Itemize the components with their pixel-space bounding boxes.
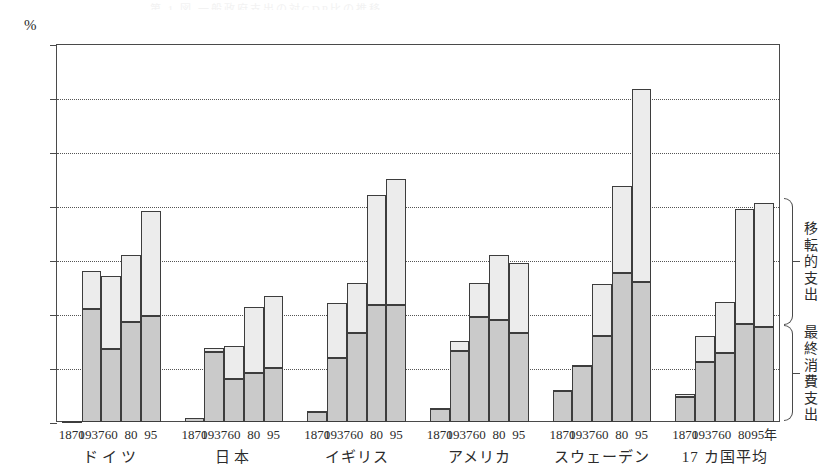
bar-segment-consumption (715, 353, 735, 422)
x-axis-country-label: 日本 (185, 450, 284, 465)
bar-segment-transfer (754, 203, 774, 327)
bar-segment-consumption (347, 333, 367, 422)
bar-3-3[interactable] (489, 255, 509, 422)
bar-segment-consumption (572, 366, 592, 422)
bar-segment-consumption (754, 327, 774, 422)
x-axis-country-label: ドイツ (62, 450, 161, 465)
bar-segment-consumption (592, 336, 612, 422)
bar-5-2[interactable] (715, 302, 735, 422)
bar-0-0[interactable] (62, 421, 82, 422)
y-axis-tick (50, 153, 57, 154)
bar-2-4[interactable] (386, 179, 406, 422)
brace-pointer (793, 261, 800, 262)
gridline (57, 369, 779, 370)
bar-segment-consumption (735, 324, 755, 422)
bar-3-1[interactable] (450, 341, 470, 422)
gridline (57, 153, 779, 154)
bar-5-1[interactable] (695, 336, 715, 422)
bar-segment-consumption (367, 305, 387, 422)
brace-pointer (793, 373, 800, 374)
y-axis-tick (50, 207, 57, 208)
gridline (57, 99, 779, 100)
y-axis-tick (50, 261, 57, 262)
bar-segment-consumption (121, 322, 141, 422)
bar-2-2[interactable] (347, 283, 367, 422)
y-axis-tick (50, 369, 57, 370)
chart-title-faint: 第 1 図 一般政府支出の対GDP比の推移 (150, 0, 620, 10)
bar-segment-transfer (327, 303, 347, 358)
bar-segment-transfer (367, 195, 387, 305)
bar-5-0[interactable] (675, 394, 695, 422)
bar-1-1[interactable] (204, 348, 224, 422)
bar-segment-transfer (224, 346, 244, 378)
x-axis-country-label: イギリス (307, 450, 406, 465)
plot-area (56, 44, 780, 422)
bar-0-2[interactable] (101, 276, 121, 422)
bar-segment-transfer (715, 302, 735, 354)
bar-4-0[interactable] (553, 390, 573, 422)
chart-root: 第 1 図 一般政府支出の対GDP比の推移 % 010203040506070 … (0, 0, 836, 475)
bar-segment-transfer (469, 283, 489, 317)
bar-2-3[interactable] (367, 195, 387, 422)
bar-segment-transfer (612, 186, 632, 273)
bar-segment-consumption (386, 305, 406, 422)
bar-segment-consumption (327, 358, 347, 422)
bar-4-3[interactable] (612, 186, 632, 422)
legend-label-transfer: 移転的支出 (802, 221, 819, 304)
bar-5-3[interactable] (735, 209, 755, 422)
bar-segment-transfer (450, 341, 470, 351)
gridline (57, 207, 779, 208)
bar-segment-transfer (347, 283, 367, 333)
x-axis-year-label: 95年 (746, 428, 782, 441)
bar-3-4[interactable] (509, 263, 529, 422)
bar-segment-consumption (224, 379, 244, 422)
bar-segment-consumption (264, 368, 284, 422)
bar-segment-transfer (121, 255, 141, 323)
bar-1-3[interactable] (244, 307, 264, 422)
bar-segment-transfer (264, 296, 284, 368)
y-axis-tick (50, 45, 57, 46)
x-axis-year-label: 95 (624, 428, 660, 441)
bar-0-3[interactable] (121, 255, 141, 422)
bar-2-0[interactable] (307, 411, 327, 422)
bar-segment-consumption (509, 333, 529, 422)
bar-segment-consumption (244, 373, 264, 422)
bar-segment-consumption (553, 391, 573, 422)
x-axis-country-label: スウェーデン (553, 450, 652, 465)
bar-segment-consumption (469, 317, 489, 422)
bar-3-0[interactable] (430, 408, 450, 422)
y-axis-unit-label: % (24, 18, 37, 33)
bar-segment-transfer (101, 276, 121, 349)
bar-segment-consumption (307, 412, 327, 422)
bar-1-2[interactable] (224, 346, 244, 422)
bar-segment-consumption (101, 349, 121, 422)
bar-1-0[interactable] (185, 418, 205, 422)
bar-5-4[interactable] (754, 203, 774, 422)
bar-4-4[interactable] (632, 89, 652, 422)
bar-segment-consumption (675, 397, 695, 422)
bar-segment-transfer (489, 255, 509, 321)
bar-segment-transfer (592, 284, 612, 335)
y-axis-tick (50, 315, 57, 316)
gridline (57, 261, 779, 262)
bar-2-1[interactable] (327, 303, 347, 422)
bar-4-1[interactable] (572, 365, 592, 422)
bar-segment-consumption (185, 418, 205, 422)
bar-segment-transfer (386, 179, 406, 305)
x-axis-year-label: 95 (256, 428, 292, 441)
x-axis-country-label: 17 カ国平均 (675, 450, 774, 465)
bar-segment-transfer (735, 209, 755, 324)
x-axis-year-label: 95 (133, 428, 169, 441)
bar-0-4[interactable] (141, 211, 161, 422)
x-axis-year-label: 95 (501, 428, 537, 441)
bar-segment-consumption (62, 421, 82, 423)
bar-4-2[interactable] (592, 284, 612, 422)
bar-segment-transfer (82, 271, 102, 309)
bar-segment-transfer (695, 336, 715, 362)
bar-0-1[interactable] (82, 271, 102, 422)
bar-segment-consumption (450, 351, 470, 422)
bar-segment-transfer (509, 263, 529, 333)
bar-segment-consumption (489, 320, 509, 422)
bar-1-4[interactable] (264, 296, 284, 422)
bar-3-2[interactable] (469, 283, 489, 422)
